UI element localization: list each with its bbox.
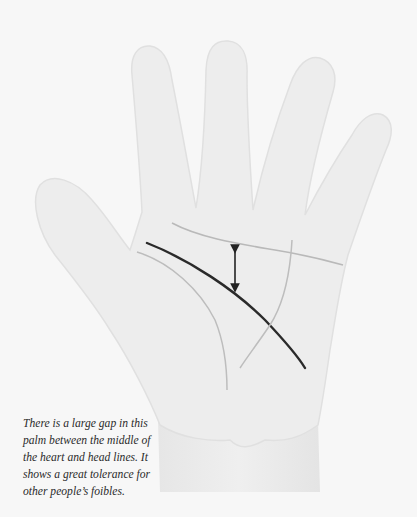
caption-line: other people’s foibles. <box>23 483 183 500</box>
hand-outline <box>36 41 392 447</box>
caption-line: There is a large gap in this <box>23 415 183 432</box>
caption-line: palm between the middle of <box>23 432 183 449</box>
caption-line: shows a great tolerance for <box>23 466 183 483</box>
caption: There is a large gap in this palm betwee… <box>23 415 183 500</box>
caption-line: the heart and head lines. It <box>23 449 183 466</box>
